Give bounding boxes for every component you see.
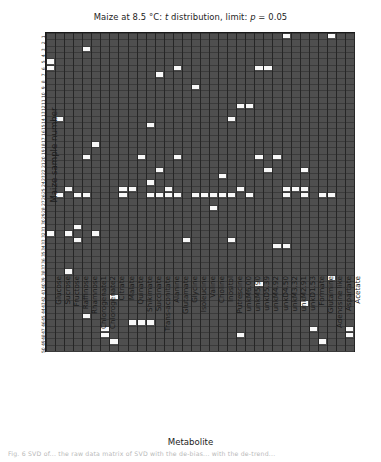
x-tick-label: Alanine xyxy=(172,276,181,356)
x-tick-label: unkM4.92 xyxy=(271,276,280,356)
heatmap-cell-significant xyxy=(156,72,163,77)
heatmap-cell-significant xyxy=(83,47,90,52)
heatmap-cell-significant xyxy=(201,193,208,198)
heatmap-cell-significant xyxy=(319,193,326,198)
x-tick-label: Glycine xyxy=(190,276,199,356)
x-tick-label: unkM6.00 xyxy=(244,276,253,356)
heatmap-cell-significant xyxy=(83,193,90,198)
x-tick-label: unkM3.32 xyxy=(290,276,299,356)
x-tick-label: Isoleucine xyxy=(199,276,208,356)
x-tick-label: Rhamnose xyxy=(90,276,99,356)
heatmap-cell-significant xyxy=(174,155,181,160)
heatmap-cell-significant xyxy=(246,193,253,198)
heatmap-cell-significant xyxy=(174,66,181,71)
heatmap-cell-significant xyxy=(47,231,54,236)
x-tick-label: Raffinose xyxy=(81,276,90,356)
heatmap-cell-significant xyxy=(237,187,244,192)
heatmap-cell-significant xyxy=(83,155,90,160)
x-tick-label: unkM2.91 xyxy=(299,276,308,356)
x-tick-label: Malate xyxy=(127,276,136,356)
x-tick-label: Trans-aconitate xyxy=(163,276,172,356)
x-axis-label: Metabolite xyxy=(0,437,381,447)
x-tick-label: Inositol xyxy=(226,276,235,356)
x-tick-label: Formate xyxy=(317,276,326,356)
heatmap-cell-significant xyxy=(273,244,280,249)
figure-caption: Fig. 6 SVD of... the raw data matrix of … xyxy=(8,450,373,460)
y-axis-tick-labels: 1234567891011121314151617181920212223242… xyxy=(18,32,44,352)
x-tick-label: Quinate xyxy=(136,276,145,356)
x-tick-label: Shikimate xyxy=(145,276,154,356)
chart-title: Maize at 8.5 °C: t distribution, limit: … xyxy=(0,12,381,22)
heatmap-cell-significant xyxy=(291,187,298,192)
x-axis-tick-labels: GlucoseSucroseFructoseRaffinoseRhamnoseC… xyxy=(45,354,355,434)
heatmap-cell-significant xyxy=(147,193,154,198)
heatmap-cell-significant xyxy=(328,193,335,198)
x-tick-label: Glutamate xyxy=(181,276,190,356)
heatmap-cell-significant xyxy=(301,193,308,198)
heatmap-cell-significant xyxy=(219,174,226,179)
x-tick-label: Citrate xyxy=(117,276,126,356)
heatmap-cell-significant xyxy=(128,187,135,192)
title-mid: distribution, limit: xyxy=(168,12,250,22)
x-tick-label: Glutamine xyxy=(326,276,335,356)
heatmap-cell-significant xyxy=(65,187,72,192)
heatmap-cell-significant xyxy=(74,193,81,198)
heatmap-cell-significant xyxy=(228,193,235,198)
heatmap-cell-significant xyxy=(246,104,253,109)
heatmap-cell-significant xyxy=(228,117,235,122)
heatmap-cell-significant xyxy=(301,187,308,192)
x-tick-label: unkD4.50 xyxy=(281,276,290,356)
heatmap-cell-significant xyxy=(264,167,271,172)
heatmap-cell-significant xyxy=(165,193,172,198)
heatmap-cell-significant xyxy=(65,269,72,274)
heatmap-cell-significant xyxy=(47,66,54,71)
x-tick-label: Succinate xyxy=(154,276,163,356)
x-tick-label: Aspartate xyxy=(344,276,353,356)
x-tick-label: unkM5.90 xyxy=(253,276,262,356)
heatmap-cell-significant xyxy=(264,66,271,71)
x-tick-label: Glucose xyxy=(54,276,63,356)
x-tick-label: Sucrose xyxy=(63,276,72,356)
heatmap-cell-significant xyxy=(92,231,99,236)
x-tick-label: Choline xyxy=(217,276,226,356)
heatmap-cell-significant xyxy=(156,193,163,198)
heatmap-cell-significant xyxy=(301,167,308,172)
heatmap-cell-significant xyxy=(119,193,126,198)
title-suffix: = 0.05 xyxy=(256,12,288,22)
heatmap-cell-significant xyxy=(183,237,190,242)
heatmap-cell-significant xyxy=(255,66,262,71)
y-axis-label: Maize sample number xyxy=(49,95,59,215)
heatmap-cell-significant xyxy=(192,193,199,198)
heatmap-cell-significant xyxy=(65,231,72,236)
x-tick-label: Valine xyxy=(208,276,217,356)
heatmap-cell-significant xyxy=(282,244,289,249)
figure-container: Maize at 8.5 °C: t distribution, limit: … xyxy=(0,0,381,462)
x-tick-label: unkD1.53 xyxy=(308,276,317,356)
x-tick-label: Acetate xyxy=(353,276,362,356)
heatmap-cell-significant xyxy=(282,193,289,198)
title-prefix: Maize at 8.5 °C: xyxy=(94,12,165,22)
heatmap-cell-significant xyxy=(282,187,289,192)
heatmap-cell-significant xyxy=(255,155,262,160)
heatmap-cell-significant xyxy=(137,155,144,160)
heatmap-cell-significant xyxy=(328,34,335,39)
heatmap-cell-significant xyxy=(92,142,99,147)
x-tick-label: Fructose xyxy=(72,276,81,356)
heatmap-cell-significant xyxy=(210,206,217,211)
heatmap-cell-significant xyxy=(74,225,81,230)
heatmap-cell-significant xyxy=(147,180,154,185)
heatmap-cell-significant xyxy=(165,187,172,192)
heatmap-cell-significant xyxy=(192,85,199,90)
heatmap-cell-significant xyxy=(282,34,289,39)
heatmap-cell-significant xyxy=(219,193,226,198)
heatmap-cell-significant xyxy=(228,237,235,242)
heatmap-cell-significant xyxy=(74,237,81,242)
heatmap-cell-significant xyxy=(210,193,217,198)
x-tick-label: Chlorogenate1 xyxy=(99,276,108,356)
heatmap-cell-significant xyxy=(47,59,54,64)
x-tick-label: Adenosine like xyxy=(335,276,344,356)
x-tick-label: Putrescine xyxy=(235,276,244,356)
heatmap-cell-significant xyxy=(273,155,280,160)
heatmap-cell-significant xyxy=(119,187,126,192)
heatmap-cell-significant xyxy=(237,104,244,109)
